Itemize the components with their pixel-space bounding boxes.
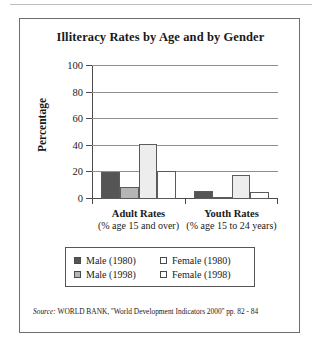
bar bbox=[120, 187, 139, 199]
chart-title: Illiteracy Rates by Age and by Gender bbox=[20, 30, 301, 45]
y-tick bbox=[86, 65, 92, 66]
bar bbox=[213, 197, 232, 199]
y-axis-title: Percentage bbox=[36, 77, 48, 173]
legend-row: Male (1998) Female (1998) bbox=[74, 267, 246, 281]
y-tick-label: 0 bbox=[78, 193, 83, 204]
bar bbox=[157, 171, 176, 199]
y-tick bbox=[86, 171, 92, 172]
x-tick bbox=[185, 198, 186, 204]
source-text: WORLD BANK, ''World Development Indicato… bbox=[56, 307, 258, 316]
x-category-label: Youth Rates(% age 15 to 24 years) bbox=[168, 207, 294, 233]
scan-artifact-line bbox=[10, 4, 312, 5]
legend-swatch-icon bbox=[160, 257, 167, 264]
x-tick bbox=[92, 198, 93, 204]
legend-swatch-icon bbox=[160, 271, 167, 278]
y-tick-label: 40 bbox=[73, 139, 84, 150]
plot-area: 020406080100 bbox=[92, 65, 278, 199]
legend-label: Male (1998) bbox=[86, 269, 136, 280]
legend-item-female-1998: Female (1998) bbox=[160, 269, 246, 280]
chart-legend: Male (1980) Female (1980) Male (1998) Fe… bbox=[65, 247, 255, 287]
gridline bbox=[92, 92, 278, 93]
legend-swatch-icon bbox=[74, 257, 81, 264]
source-keyword: Source: bbox=[33, 307, 56, 316]
legend-item-male-1998: Male (1998) bbox=[74, 269, 160, 280]
legend-item-female-1980: Female (1980) bbox=[160, 255, 246, 266]
legend-label: Female (1998) bbox=[172, 269, 231, 280]
gridline bbox=[92, 65, 278, 66]
gridline bbox=[92, 145, 278, 146]
y-tick-label: 20 bbox=[73, 166, 84, 177]
gridline bbox=[92, 118, 278, 119]
x-tick bbox=[277, 198, 278, 204]
y-tick-label: 100 bbox=[67, 60, 83, 71]
legend-item-male-1980: Male (1980) bbox=[74, 255, 160, 266]
legend-label: Female (1980) bbox=[172, 255, 231, 266]
y-tick bbox=[86, 118, 92, 119]
bar bbox=[139, 144, 158, 199]
y-tick-label: 80 bbox=[73, 86, 84, 97]
legend-swatch-icon bbox=[74, 271, 81, 278]
y-axis-line bbox=[92, 65, 93, 199]
chart-source-note: Source: WORLD BANK, ''World Development … bbox=[33, 307, 293, 316]
y-tick-label: 60 bbox=[73, 113, 84, 124]
gridline bbox=[92, 171, 278, 172]
x-axis-category-labels: Adult Rates(% age 15 and over)Youth Rate… bbox=[92, 207, 278, 247]
y-tick bbox=[86, 145, 92, 146]
bar bbox=[101, 172, 120, 199]
y-tick bbox=[86, 92, 92, 93]
chart-figure-frame: Illiteracy Rates by Age and by Gender Pe… bbox=[19, 18, 300, 333]
legend-row: Male (1980) Female (1980) bbox=[74, 253, 246, 267]
bar bbox=[232, 175, 251, 199]
bar bbox=[250, 192, 269, 199]
plot-area-wrapper: Percentage 020406080100 Adult Rates(% ag… bbox=[20, 57, 301, 237]
x-category-name: Youth Rates bbox=[168, 207, 294, 220]
bar bbox=[194, 191, 213, 199]
x-category-sublabel: (% age 15 to 24 years) bbox=[168, 220, 294, 233]
legend-label: Male (1980) bbox=[86, 255, 136, 266]
